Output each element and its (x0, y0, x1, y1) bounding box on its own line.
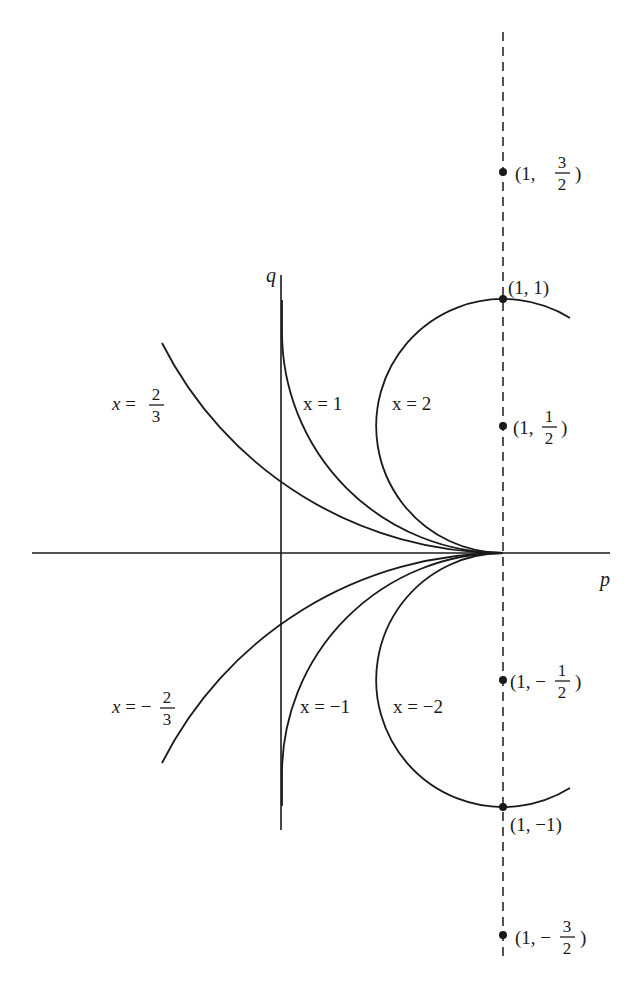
svg-text:3: 3 (163, 710, 172, 729)
point-1-3-2 (499, 168, 507, 176)
label-x-2-3: x = 2 3 (111, 385, 164, 426)
svg-text:(1, −: (1, − (515, 927, 551, 949)
svg-text:): ) (575, 671, 581, 693)
label-point-1-1: (1, 1) (508, 277, 549, 299)
point-1-1 (499, 295, 507, 303)
svg-text:2: 2 (558, 175, 567, 194)
label-x-neg-1: x = −1 (300, 696, 350, 717)
curve-x-2-3 (162, 343, 503, 553)
svg-text:2: 2 (558, 683, 567, 702)
svg-text:x =: x = (111, 393, 136, 414)
diagram-canvas: p q x = 2 3 x = 1 x = 2 x = − 2 3 x = −1… (0, 0, 639, 998)
svg-text:1: 1 (558, 661, 567, 680)
label-point-1-1-2: (1, 1 2 ) (513, 407, 567, 448)
curve-x-neg-2-3 (162, 553, 503, 763)
label-x-neg-2: x = −2 (393, 696, 443, 717)
label-x-neg-2-3: x = − 2 3 (111, 688, 175, 729)
svg-text:1: 1 (545, 407, 554, 426)
svg-text:3: 3 (558, 153, 567, 172)
svg-text:2: 2 (152, 385, 161, 404)
svg-text:(1,: (1, (515, 163, 536, 185)
point-1-neg-1-2 (499, 676, 507, 684)
point-1-1-2 (499, 422, 507, 430)
svg-text:(1,: (1, (513, 417, 534, 439)
svg-text:): ) (561, 417, 567, 439)
label-point-1-3-2: (1, 3 2 ) (515, 153, 581, 194)
label-point-1-neg-1: (1, −1) (510, 814, 562, 836)
p-axis-label: p (598, 568, 610, 591)
label-point-1-neg-3-2: (1, − 3 2 ) (515, 917, 586, 958)
svg-text:3: 3 (563, 917, 572, 936)
curve-x-2 (376, 299, 570, 553)
svg-text:x = −: x = − (111, 696, 151, 717)
svg-text:2: 2 (545, 429, 554, 448)
label-point-1-neg-1-2: (1, − 1 2 ) (510, 661, 581, 702)
svg-text:(1, −: (1, − (510, 671, 546, 693)
curve-x-neg-1 (282, 553, 503, 806)
svg-text:): ) (575, 163, 581, 185)
svg-text:3: 3 (152, 407, 161, 426)
point-1-neg-3-2 (499, 931, 507, 939)
curve-x-1 (282, 300, 503, 553)
svg-text:): ) (580, 927, 586, 949)
svg-text:2: 2 (163, 688, 172, 707)
label-x-1: x = 1 (303, 393, 342, 414)
point-1-neg-1 (499, 803, 507, 811)
svg-text:2: 2 (563, 939, 572, 958)
q-axis-label: q (266, 264, 276, 287)
label-x-2: x = 2 (392, 393, 431, 414)
